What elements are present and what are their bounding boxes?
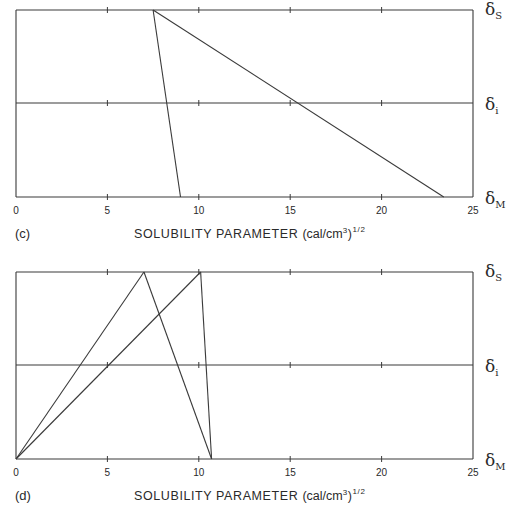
x-tick-label: 20	[376, 205, 388, 216]
x-axis-title: SOLUBILITY PARAMETER (cal/cm3)1/2	[134, 225, 365, 241]
panel-label: (c)	[15, 226, 30, 241]
delta-M-label: δM	[485, 450, 506, 472]
x-tick-label: 5	[105, 467, 111, 478]
x-tick-label: 0	[13, 205, 19, 216]
delta-S-label: δS	[485, 262, 502, 283]
delta-i-label: δi	[485, 94, 498, 116]
panel-label: (d)	[15, 488, 31, 503]
x-tick-label: 15	[285, 467, 297, 478]
x-tick-label: 0	[13, 467, 19, 478]
diagram-c: 0510152025δSδiδM(c)SOLUBILITY PARAMETER …	[0, 0, 513, 250]
x-tick-label: 20	[376, 467, 388, 478]
diagram-d: 0510152025δSδiδM(d)SOLUBILITY PARAMETER …	[0, 262, 513, 512]
panel-d: 0510152025δSδiδM(d)SOLUBILITY PARAMETER …	[0, 262, 513, 512]
x-tick-label: 25	[467, 205, 479, 216]
x-tick-label: 10	[193, 467, 205, 478]
delta-i-label: δi	[485, 356, 498, 378]
x-tick-label: 5	[105, 205, 111, 216]
delta-M-label: δM	[485, 188, 506, 210]
x-axis-title: SOLUBILITY PARAMETER (cal/cm3)1/2	[134, 487, 365, 503]
x-tick-label: 25	[467, 467, 479, 478]
x-tick-label: 15	[285, 205, 297, 216]
delta-S-label: δS	[485, 0, 502, 21]
panel-c: 0510152025δSδiδM(c)SOLUBILITY PARAMETER …	[0, 0, 513, 250]
x-tick-label: 10	[193, 205, 205, 216]
